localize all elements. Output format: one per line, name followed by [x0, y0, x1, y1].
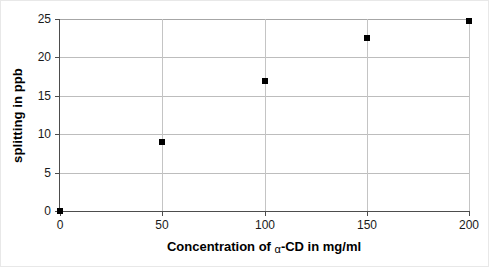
x-axis-tick-mark [162, 211, 163, 216]
x-axis-title-suffix: -CD in mg/ml [281, 239, 361, 254]
y-axis-title-text: splitting in ppb [10, 68, 25, 163]
y-axis-tick-mark [55, 57, 60, 58]
data-point-marker [57, 208, 63, 214]
alpha-symbol: α [275, 243, 281, 255]
chart-figure: splitting in ppb 0510152025050100150200 … [0, 0, 489, 267]
x-axis-title-prefix: Concentration of [167, 239, 275, 254]
x-axis-tick-label: 50 [155, 219, 168, 231]
y-axis-tick-mark [55, 19, 60, 20]
y-axis-tick-mark [55, 134, 60, 135]
y-axis-title: splitting in ppb [7, 19, 27, 212]
x-axis-tick-label: 150 [357, 219, 377, 231]
plot-area: 0510152025050100150200 [59, 19, 469, 212]
y-axis-tick-label: 20 [38, 51, 51, 63]
x-axis-tick-mark [367, 211, 368, 216]
x-axis-title: Concentration of α-CD in mg/ml [59, 239, 469, 254]
y-axis-tick-label: 0 [44, 205, 51, 217]
y-axis-tick-label: 15 [38, 90, 51, 102]
gridline-vertical [162, 19, 163, 211]
data-point-marker [262, 78, 268, 84]
x-axis-tick-label: 0 [57, 219, 64, 231]
x-axis-tick-label: 100 [255, 219, 275, 231]
x-axis-tick-label: 200 [459, 219, 479, 231]
gridline-vertical [265, 19, 266, 211]
y-axis-tick-mark [55, 173, 60, 174]
data-point-marker [159, 139, 165, 145]
data-point-marker [466, 18, 472, 24]
gridline-vertical [469, 19, 470, 211]
gridline-vertical [367, 19, 368, 211]
x-axis-tick-mark [469, 211, 470, 216]
x-axis-tick-mark [265, 211, 266, 216]
y-axis-tick-label: 25 [38, 13, 51, 25]
y-axis-tick-label: 10 [38, 128, 51, 140]
data-point-marker [364, 35, 370, 41]
y-axis-tick-mark [55, 96, 60, 97]
y-axis-tick-label: 5 [44, 167, 51, 179]
